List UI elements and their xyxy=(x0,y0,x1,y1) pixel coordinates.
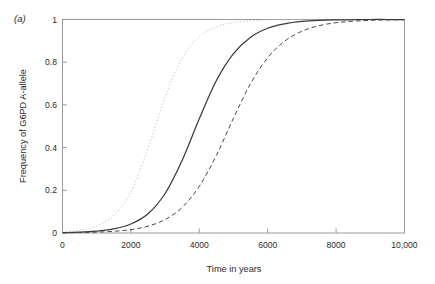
y-axis-title: Frequency of G6PD A-allele xyxy=(18,69,28,183)
data-curves-group xyxy=(63,19,405,232)
x-tick-label-8000: 8000 xyxy=(327,240,346,250)
x-tick-label-6000: 6000 xyxy=(258,240,277,250)
chart-svg: (a) Frequency of G6PD A-allele Time in y… xyxy=(0,0,435,284)
y-tick-label-0: 0 xyxy=(52,228,57,238)
x-tick-label-4000: 4000 xyxy=(190,240,209,250)
x-axis-tick-labels: 0 2000 4000 6000 8000 10,000 xyxy=(60,240,418,250)
x-tick-label-10000: 10,000 xyxy=(391,240,418,250)
curve-2 xyxy=(63,19,405,232)
y-tick-label-0-4: 0.4 xyxy=(45,143,57,153)
y-tick-label-0-6: 0.6 xyxy=(45,100,57,110)
x-tick-label-2000: 2000 xyxy=(121,240,140,250)
curve-1 xyxy=(63,19,405,231)
panel-label: (a) xyxy=(14,13,26,24)
curve-3 xyxy=(63,20,405,233)
y-tick-label-0-2: 0.2 xyxy=(45,185,57,195)
figure-panel-a: (a) Frequency of G6PD A-allele Time in y… xyxy=(0,0,435,284)
y-axis-tick-labels: 0 0.2 0.4 0.6 0.8 1 xyxy=(45,15,57,239)
x-axis-title: Time in years xyxy=(207,264,262,274)
y-tick-label-0-8: 0.8 xyxy=(45,57,57,67)
y-tick-label-1: 1 xyxy=(52,15,57,25)
x-tick-label-0: 0 xyxy=(60,240,65,250)
plot-frame xyxy=(63,20,405,234)
y-axis-ticks xyxy=(63,20,68,234)
